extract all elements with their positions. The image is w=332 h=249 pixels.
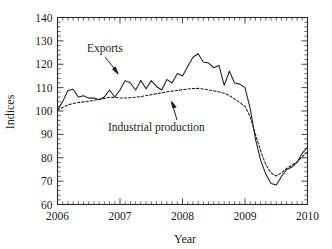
- x-tick-label: 2006: [46, 210, 69, 222]
- y-tick-label: 140: [35, 12, 53, 24]
- industrial-production-annotation-arrow-head: [172, 102, 177, 108]
- y-tick-label: 90: [41, 128, 53, 140]
- data-series-group: [58, 54, 308, 185]
- y-tick-label: 130: [35, 35, 53, 47]
- industrial-production-annotation-label: Industrial production: [108, 121, 205, 134]
- indices-line-chart: 60708090100110120130140 2006200720082009…: [0, 0, 332, 249]
- x-tick-label: 2008: [171, 210, 194, 222]
- y-tick-label: 110: [36, 82, 53, 94]
- exports-annotation-arrow-head: [113, 67, 118, 74]
- y-tick-label: 120: [35, 58, 53, 70]
- x-tick-label: 2009: [234, 210, 257, 222]
- y-tick-label: 70: [41, 175, 53, 187]
- x-tick-label: 2007: [109, 210, 132, 222]
- series-line-exports: [58, 54, 308, 185]
- x-axis-title: Year: [174, 232, 196, 246]
- x-axis-tick-labels: 20062007200820092010: [46, 210, 319, 222]
- y-axis-title: Indices: [3, 94, 17, 129]
- y-tick-label: 80: [41, 152, 53, 164]
- chart-figure: 60708090100110120130140 2006200720082009…: [0, 0, 332, 249]
- y-axis-tick-labels: 60708090100110120130140: [35, 12, 53, 211]
- x-tick-label: 2010: [296, 210, 319, 222]
- industrial-production-annotation: Industrial production: [108, 102, 205, 135]
- y-tick-label: 100: [35, 105, 53, 117]
- exports-annotation: Exports: [87, 42, 123, 74]
- exports-annotation-label: Exports: [87, 42, 123, 55]
